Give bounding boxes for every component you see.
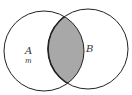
set-a-sublabel: m: [25, 57, 32, 65]
set-a-label: A: [24, 45, 32, 56]
venn-diagram: A m B: [0, 0, 132, 95]
set-b-label: B: [85, 43, 93, 54]
